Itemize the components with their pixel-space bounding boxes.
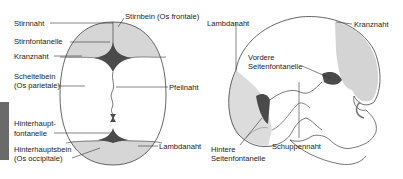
label-hinterhauptfontanelle-line2: fontanelle [14,129,47,138]
label-hintere-seitenfontanelle-line2: Seitenfontanelle [211,154,265,163]
label-pfeilnaht: Pfeilnaht [169,83,199,92]
label-scheitelbein-line2: (Os parietale) [14,81,60,90]
label-kranznaht-side: Kranznaht [354,20,389,29]
label-stirnbein: Stirnbein (Os frontale) [125,12,199,21]
label-hintere-seitenfontanelle-line1: Hintere [211,145,235,154]
label-stirnfontanelle: Stirnfontanelle [14,37,63,46]
label-lambdanaht-side: Lambdanaht [207,19,249,28]
label-kranznaht-top: Kranznaht [14,52,49,61]
label-lambdanaht-top: Lambdanaht [159,142,201,151]
label-hinterhauptfontanelle-line1: Hinterhaupt- [14,119,56,128]
label-schuppennaht: Schuppennaht [272,142,321,151]
label-hinterhauptsbein-line1: Hinterhauptsbein [14,145,71,154]
label-vordere-seitenfontanelle-line2: Seitenfontanelle [248,62,302,71]
label-vordere-seitenfontanelle-line1: Vordere [248,53,275,62]
label-hinterhauptsbein-line2: (Os occipitale) [14,154,63,163]
fontanelle-diagram: Stirnnaht Stirnbein (Os frontale) Stirnf… [0,0,403,179]
label-scheitelbein-line1: Scheitelbein [14,72,55,81]
label-stirnnaht: Stirnnaht [14,19,44,28]
